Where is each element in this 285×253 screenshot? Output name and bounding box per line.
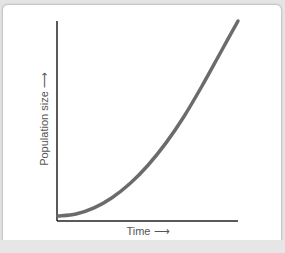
x-axis-label: Time ⟶: [126, 225, 169, 238]
y-axis-label: Population size ⟶: [38, 72, 51, 166]
growth-curve: [58, 21, 238, 216]
